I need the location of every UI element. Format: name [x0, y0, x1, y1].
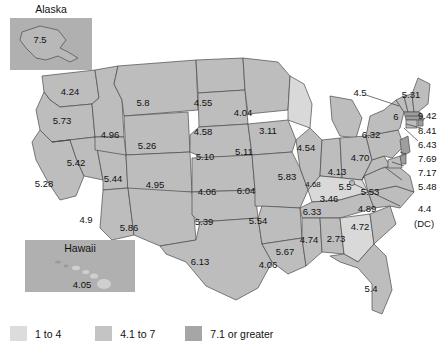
label-wyoming: 5.26 — [138, 140, 157, 151]
state-new-jersey[interactable] — [400, 136, 410, 156]
label-mississippi: 5.67 — [276, 246, 295, 257]
label-michigan: 4.54 — [297, 142, 316, 153]
label-south-carolina: 4.72 — [351, 221, 370, 232]
label-ohio: 4.13 — [328, 166, 347, 177]
leader-vermont — [366, 95, 399, 106]
label-minnesota: 4.04 — [234, 107, 253, 118]
label-california: 5.28 — [35, 178, 54, 189]
label-west-virginia: 5.5 — [338, 181, 351, 192]
state-new-mexico[interactable] — [128, 188, 196, 246]
label-indiana: 4.68 — [305, 180, 321, 189]
label-vermont: 4.5 — [353, 87, 366, 98]
alaska-title: Alaska — [35, 3, 67, 15]
label-kentucky: 3.46 — [320, 193, 339, 204]
legend-label-2: 4.1 to 7 — [120, 328, 155, 340]
label-arizona: 4.9 — [79, 214, 92, 225]
state-wisconsin[interactable] — [288, 76, 312, 128]
label-missouri: 6.04 — [237, 185, 256, 196]
label-alabama: 4.74 — [300, 234, 319, 245]
callout-dc-label: (DC) — [414, 218, 434, 229]
map-legend: 1 to 4 4.1 to 7 7.1 or greater — [10, 326, 273, 341]
label-utah: 5.44 — [104, 173, 123, 184]
label-south-dakota: 4.58 — [194, 126, 213, 137]
label-oklahoma: 5.39 — [195, 216, 214, 227]
alaska-inset[interactable]: Alaska 7.5 — [10, 3, 92, 70]
callout-massachusetts: 9.42 — [418, 110, 437, 121]
state-michigan[interactable] — [330, 96, 362, 138]
label-north-dakota: 4.55 — [194, 97, 213, 108]
label-kansas: 4.06 — [198, 186, 217, 197]
legend-label-3: 7.1 or greater — [210, 328, 273, 340]
label-tennessee: 6.33 — [303, 206, 322, 217]
legend-label-1: 1 to 4 — [35, 328, 61, 340]
label-nebraska: 5.10 — [196, 151, 215, 162]
label-new-hampshire: 6 — [393, 111, 398, 122]
label-florida: 5.4 — [364, 283, 377, 294]
hawaii-inset[interactable]: Hawaii 4.05 — [25, 240, 135, 292]
callout-new-jersey: 7.69 — [418, 153, 437, 164]
label-new-mexico: 5.86 — [120, 222, 139, 233]
hawaii-value: 4.05 — [73, 279, 92, 290]
label-pennsylvania: 4.70 — [351, 152, 370, 163]
label-new-york: 6.32 — [362, 129, 381, 140]
label-colorado: 4.95 — [146, 179, 165, 190]
label-virginia: 5.53 — [361, 186, 380, 197]
callout-dc-value: 4.4 — [418, 203, 431, 214]
state-wyoming[interactable] — [124, 112, 190, 155]
label-washington: 4.24 — [61, 86, 80, 97]
callout-rhode-island: 8.41 — [418, 125, 437, 136]
state-north-dakota[interactable] — [196, 58, 245, 93]
label-illinois: 5.83 — [278, 171, 297, 182]
hawaii-title: Hawaii — [64, 242, 96, 254]
label-texas: 6.13 — [191, 256, 210, 267]
label-oregon: 5.73 — [53, 115, 72, 126]
us-choropleth-map: Alaska 7.5 Hawaii 4.05 4.24 5.73 4.96 5.… — [0, 0, 440, 356]
label-maine: 5.31 — [402, 89, 421, 100]
label-montana: 5.8 — [136, 97, 149, 108]
label-louisiana: 4.06 — [259, 259, 278, 270]
label-georgia: 2.73 — [327, 233, 346, 244]
label-nevada: 5.42 — [67, 157, 86, 168]
callout-connecticut: 6.43 — [418, 139, 437, 150]
label-arkansas: 5.54 — [249, 215, 268, 226]
alaska-value: 7.5 — [33, 34, 46, 45]
legend-item-3[interactable]: 7.1 or greater — [185, 326, 273, 341]
callout-delaware: 7.17 — [418, 167, 437, 178]
legend-swatch-3-icon — [185, 326, 202, 341]
label-iowa: 5.11 — [235, 146, 253, 157]
map-svg: Alaska 7.5 Hawaii 4.05 4.24 5.73 4.96 5.… — [0, 0, 440, 356]
legend-swatch-2-icon — [95, 326, 112, 341]
legend-item-2[interactable]: 4.1 to 7 — [95, 326, 155, 341]
label-wisconsin: 3.11 — [259, 125, 277, 136]
state-montana[interactable] — [114, 60, 198, 116]
callout-maryland: 5.48 — [418, 181, 437, 192]
legend-item-1[interactable]: 1 to 4 — [10, 326, 61, 341]
label-idaho: 4.96 — [101, 129, 120, 140]
legend-swatch-1-icon — [10, 326, 27, 341]
callout-labels: 9.42 8.41 6.43 7.69 7.17 5.48 4.4 (DC) — [414, 110, 437, 229]
label-north-carolina: 4.89 — [358, 203, 377, 214]
